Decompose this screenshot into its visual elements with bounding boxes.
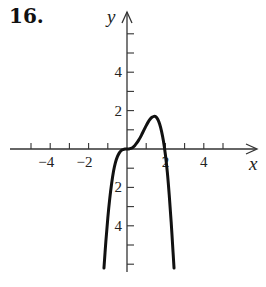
x-tick-label: −2 [77,154,93,170]
y-axis-label: y [105,6,116,27]
y-tick-label: 2 [115,179,123,195]
y-tick-label: 4 [115,218,123,234]
x-tick-label: −4 [38,154,54,170]
y-tick-label: 4 [115,64,123,80]
y-tick-label: 2 [115,103,123,119]
function-graph: −4−2244224xy [0,0,266,287]
x-axis-label: x [248,153,258,174]
x-tick-label: 4 [200,154,208,170]
axes [10,12,257,272]
